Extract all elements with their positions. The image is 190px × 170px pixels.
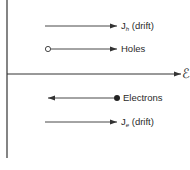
electrons-label: Electrons (123, 93, 163, 103)
field-label: ℰ (182, 67, 190, 80)
hole-open-circle-icon (45, 46, 50, 51)
jh-suffix: (drift) (129, 20, 154, 31)
electrons-text: Electrons (123, 92, 163, 103)
drift-diagram (0, 0, 190, 170)
field-symbol: ℰ (182, 66, 190, 81)
jh-drift-label: Jh (drift) (121, 21, 154, 34)
electron-filled-circle-icon (114, 95, 120, 101)
je-drift-label: Je (drift) (121, 117, 154, 130)
holes-label: Holes (121, 44, 145, 54)
holes-text: Holes (121, 43, 145, 54)
je-suffix: (drift) (129, 116, 154, 127)
